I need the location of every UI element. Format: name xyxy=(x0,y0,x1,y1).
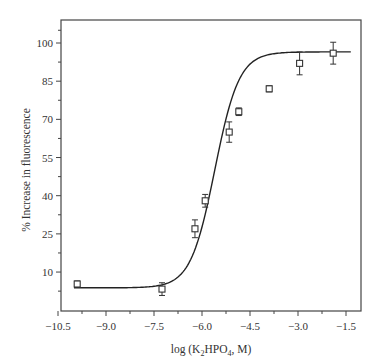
square-marker xyxy=(202,198,208,204)
y-axis-ticks: 102540557085100 xyxy=(37,30,62,291)
square-marker xyxy=(192,226,198,232)
x-tick-label: −1.5 xyxy=(336,320,356,332)
data-point xyxy=(266,86,272,92)
data-point xyxy=(236,108,242,116)
data-point xyxy=(74,281,80,287)
y-tick-label: 70 xyxy=(42,113,54,125)
x-label-pre: log (K xyxy=(171,343,201,356)
y-tick-label: 85 xyxy=(42,75,54,87)
x-tick-label: −9.0 xyxy=(96,320,116,332)
square-marker xyxy=(297,60,303,66)
x-tick-label: −6.0 xyxy=(192,320,212,332)
x-tick-label: −10.5 xyxy=(45,320,71,332)
square-marker xyxy=(330,50,336,56)
x-tick-label: −4.5 xyxy=(240,320,260,332)
y-axis-label: % Increase in fluorescence xyxy=(20,108,32,232)
x-tick-label: −3.0 xyxy=(288,320,308,332)
data-points xyxy=(74,42,336,295)
square-marker xyxy=(74,281,80,287)
x-axis-ticks: −10.5−9.0−7.5−6.0−4.5−3.0−1.5 xyxy=(45,311,356,332)
data-point xyxy=(192,220,198,238)
y-tick-label: 100 xyxy=(37,37,54,49)
data-point xyxy=(330,42,336,64)
x-label-mid: HPO xyxy=(204,343,227,355)
data-point xyxy=(297,52,303,75)
data-point xyxy=(226,122,232,142)
x-axis-label: log (K2HPO4, M) xyxy=(171,343,252,358)
fit-curve xyxy=(74,52,351,288)
y-tick-label: 55 xyxy=(42,152,54,164)
x-label-post: , M) xyxy=(231,343,251,356)
y-tick-label: 25 xyxy=(42,228,54,240)
x-tick-label: −7.5 xyxy=(144,320,164,332)
y-tick-label: 40 xyxy=(42,190,54,202)
chart: 102540557085100 −10.5−9.0−7.5−6.0−4.5−3.… xyxy=(0,0,379,364)
plot-frame xyxy=(61,20,361,311)
square-marker xyxy=(226,129,232,135)
square-marker xyxy=(159,286,165,292)
square-marker xyxy=(236,109,242,115)
square-marker xyxy=(266,86,272,92)
y-tick-label: 10 xyxy=(42,266,54,278)
